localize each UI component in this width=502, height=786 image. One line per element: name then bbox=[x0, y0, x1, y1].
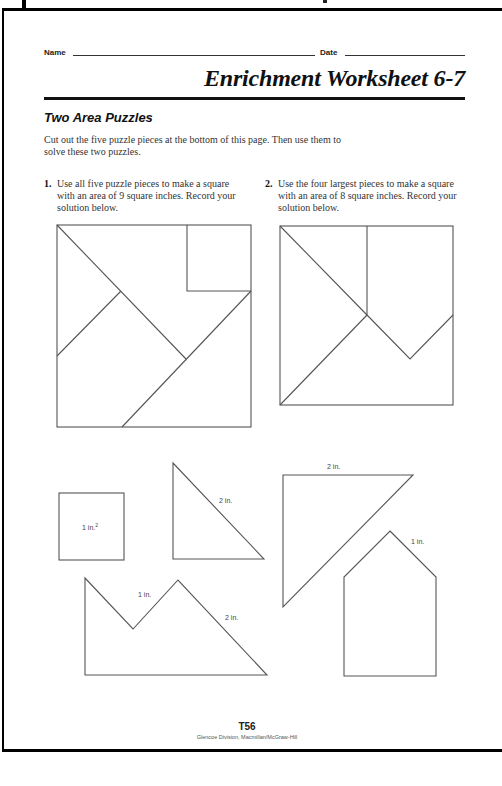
piece-large-triangle bbox=[283, 475, 413, 607]
piece-pentagon bbox=[85, 578, 267, 675]
piece-small-triangle bbox=[173, 463, 264, 559]
pentagon-long-label: 2 in. bbox=[225, 614, 238, 621]
piece-house bbox=[344, 531, 436, 676]
puzzle-2-solution bbox=[280, 226, 453, 405]
small-triangle-label: 2 in. bbox=[219, 497, 232, 504]
puzzle-1-solution bbox=[57, 225, 251, 427]
publisher-credit: Glencoe Division, Macmillan/McGraw-Hill bbox=[0, 734, 494, 740]
square-area-label: 1 in.2 bbox=[82, 522, 98, 531]
house-label: 1 in. bbox=[411, 538, 424, 545]
large-triangle-label: 2 in. bbox=[327, 463, 340, 470]
page-number: T56 bbox=[0, 721, 494, 732]
pentagon-short-label: 1 in. bbox=[138, 591, 151, 598]
